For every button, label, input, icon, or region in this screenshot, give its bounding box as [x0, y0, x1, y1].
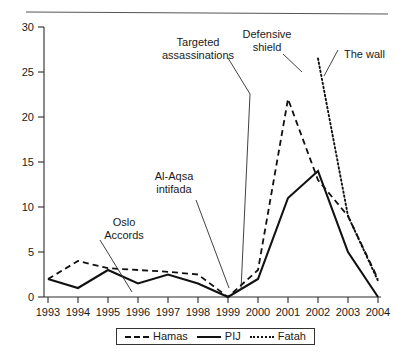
- leader-the-wall: [324, 50, 338, 76]
- x-tick-label: 1999: [216, 306, 240, 318]
- y-tick-label: 15: [22, 156, 34, 168]
- legend-label: Fatah: [278, 331, 306, 342]
- x-tick-label: 2004: [366, 306, 390, 318]
- chart-figure: 0 5 10 15 20 25 30 1993 1994 1995: [0, 0, 394, 356]
- chart-legend: Hamas PIJ Fatah: [116, 328, 315, 345]
- line-chart-svg: 0 5 10 15 20 25 30 1993 1994 1995: [0, 0, 394, 356]
- legend-swatch-dashed-icon: [125, 336, 149, 338]
- x-tick-label: 1994: [66, 306, 90, 318]
- annotation-line: Targeted: [177, 36, 220, 48]
- x-tick-label: 2003: [336, 306, 360, 318]
- y-tick-label: 10: [22, 201, 34, 213]
- annotation-oslo-accords: Oslo Accords: [104, 216, 144, 241]
- y-tick-label: 30: [22, 21, 34, 33]
- legend-swatch-solid-icon: [197, 336, 221, 338]
- x-tick-label: 1998: [186, 306, 210, 318]
- annotation-al-aqsa-intifada: Al-Aqsa intifada: [155, 170, 194, 195]
- y-tick-label: 25: [22, 66, 34, 78]
- annotation-line: Oslo: [113, 216, 136, 228]
- y-tick-label: 5: [28, 246, 34, 258]
- x-tick-label: 2001: [276, 306, 300, 318]
- legend-item-fatah: Fatah: [250, 331, 306, 342]
- annotation-line: Al-Aqsa: [155, 170, 194, 182]
- legend-item-hamas: Hamas: [125, 331, 188, 342]
- annotation-line: assassinations: [162, 49, 235, 61]
- x-tick-label: 1996: [126, 306, 150, 318]
- legend-label: PIJ: [225, 331, 241, 342]
- x-axis-tick-labels: 1993 1994 1995 1996 1997 1998 1999 2000 …: [36, 306, 390, 318]
- x-tick-label: 1993: [36, 306, 60, 318]
- annotation-defensive-shield: Defensive shield: [243, 28, 292, 53]
- y-axis-ticks: [38, 27, 44, 297]
- annotation-targeted-assassinations: Targeted assassinations: [162, 36, 235, 61]
- legend-item-pij: PIJ: [197, 331, 241, 342]
- annotation-line: intifada: [156, 183, 192, 195]
- series-line-pij: [48, 171, 378, 297]
- x-tick-label: 2002: [306, 306, 330, 318]
- leader-targeted-assassinations: [228, 58, 250, 290]
- y-tick-label: 0: [28, 291, 34, 303]
- annotation-leaders: [100, 50, 338, 292]
- annotation-line: Defensive: [243, 28, 292, 40]
- legend-swatch-dotted-icon: [250, 336, 274, 338]
- leader-defensive-shield: [283, 54, 302, 72]
- x-axis-ticks: [48, 297, 378, 303]
- annotation-line: The wall: [344, 48, 385, 60]
- leader-al-aqsa-intifada: [196, 200, 229, 288]
- annotation-line: Accords: [104, 229, 144, 241]
- legend-label: Hamas: [153, 331, 188, 342]
- y-axis-tick-labels: 0 5 10 15 20 25 30: [22, 21, 34, 303]
- x-tick-label: 1997: [156, 306, 180, 318]
- annotation-line: shield: [253, 41, 282, 53]
- top-divider-rule: [26, 12, 388, 14]
- series-line-fatah: [318, 59, 378, 281]
- leader-oslo-accords: [100, 240, 132, 292]
- annotation-the-wall: The wall: [344, 48, 385, 60]
- y-tick-label: 20: [22, 111, 34, 123]
- x-tick-label: 1995: [96, 306, 120, 318]
- x-tick-label: 2000: [246, 306, 270, 318]
